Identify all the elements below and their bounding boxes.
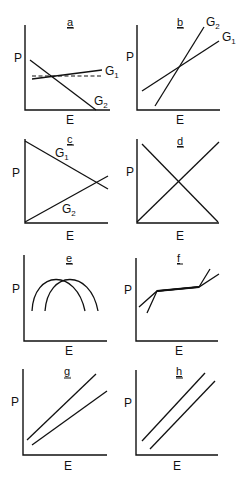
axes (136, 370, 218, 455)
y-axis-label: P (126, 50, 134, 64)
panel-letter-f: f (177, 252, 181, 264)
x-axis-label: E (66, 229, 74, 243)
x-axis-label: E (173, 459, 181, 473)
curve-label-g1: G1 (55, 146, 69, 162)
x-axis-label: E (175, 344, 183, 358)
x-axis-label: E (65, 344, 73, 358)
line-g1 (25, 141, 108, 189)
line-declining (142, 144, 218, 222)
y-axis-label: P (12, 166, 20, 180)
panel-letter-d: d (177, 135, 183, 147)
shared-plateau (157, 287, 199, 291)
y-axis-label: P (124, 396, 132, 410)
line-upper (142, 373, 205, 441)
y-axis-label: P (14, 51, 22, 65)
line-g2 (30, 60, 96, 110)
panel-letter-b: b (177, 16, 183, 28)
curve-label-g2: G2 (62, 202, 76, 218)
panel-letter-c: c (67, 133, 73, 145)
curve-label-g1: G1 (105, 64, 119, 80)
y-axis-label: P (124, 283, 132, 297)
line-g1 (142, 41, 219, 91)
panel-letter-h: h (176, 365, 182, 377)
panel-letter-e: e (66, 252, 72, 264)
line-two (147, 269, 210, 313)
panel-e: e P E (12, 252, 107, 358)
genotype-environment-diagram: a P E G1 G2 b P E G2 G1 c P E G1 G2 d (0, 0, 240, 482)
panel-g: g P E (11, 365, 107, 473)
panel-d: d P E (126, 135, 219, 243)
curve-label-g2: G2 (94, 94, 108, 110)
panel-b: b P E G2 G1 (126, 15, 236, 127)
curve-right (45, 279, 98, 311)
x-axis-label: E (66, 113, 74, 127)
panel-h: h P E (124, 365, 218, 473)
y-axis-label: P (11, 395, 19, 409)
line-lower (150, 381, 215, 449)
x-axis-label: E (176, 229, 184, 243)
curve-label-g2: G2 (206, 15, 220, 31)
panel-c: c P E G1 G2 (12, 133, 108, 243)
x-axis-label: E (176, 113, 184, 127)
x-axis-label: E (64, 459, 72, 473)
y-axis-label: P (12, 282, 20, 296)
line-one (139, 274, 219, 307)
panel-a: a P E G1 G2 (14, 16, 119, 127)
panel-letter-g: g (64, 365, 70, 377)
y-axis-label: P (126, 165, 134, 179)
line-g1 (32, 70, 102, 79)
curve-label-g1: G1 (222, 30, 236, 46)
panel-letter-a: a (67, 16, 74, 28)
curve-left (32, 279, 85, 311)
panel-f: f P E (124, 252, 219, 358)
